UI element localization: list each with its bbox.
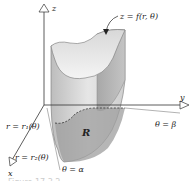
angle-alpha-label: θ = α	[62, 165, 85, 174]
z-axis-arrow	[39, 4, 49, 12]
region-label: R	[81, 127, 90, 138]
y-axis-label: y	[179, 93, 185, 102]
ray-beta	[125, 108, 180, 113]
x-axis-label: x	[8, 169, 13, 178]
y-axis-arrow	[180, 101, 189, 109]
polar-volume-diagram: z y x z = f(r, θ) R r = r₁(θ) r = r₂(θ) …	[0, 0, 194, 181]
z-axis-label: z	[51, 4, 57, 13]
angle-beta-label: θ = β	[155, 120, 177, 129]
surface-label: z = f(r, θ)	[119, 12, 158, 21]
figure-caption: Figure 17.3.2	[8, 178, 60, 181]
outer-boundary-label: r = r₂(θ)	[15, 153, 49, 162]
x-axis	[12, 105, 44, 160]
inner-boundary-label: r = r₁(θ)	[6, 122, 40, 131]
